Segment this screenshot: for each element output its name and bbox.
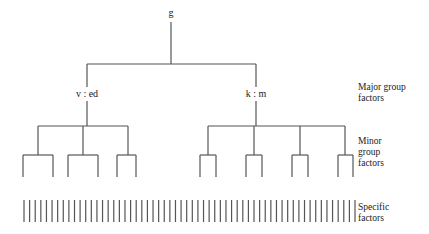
side-label-line: factors — [358, 93, 406, 104]
side-label-line: Major group — [358, 82, 406, 93]
specific-factors-label: Specific factors — [358, 202, 389, 224]
side-label-line: factors — [358, 213, 389, 224]
tree-lines — [0, 0, 429, 234]
side-label-line: Minor — [358, 136, 384, 147]
minor-group-factors-label: Minor group factors — [358, 136, 384, 169]
major-node-label-k-m: k : m — [245, 89, 268, 99]
side-label-line: Specific — [358, 202, 389, 213]
major-node-label-v-ed: v : ed — [75, 89, 99, 99]
side-label-line: group — [358, 147, 384, 158]
root-node-label-g: g — [168, 8, 175, 18]
side-label-line: factors — [358, 158, 384, 169]
major-group-factors-label: Major group factors — [358, 82, 406, 104]
hierarchy-diagram: g v : ed k : m Major group factors Minor… — [0, 0, 429, 234]
